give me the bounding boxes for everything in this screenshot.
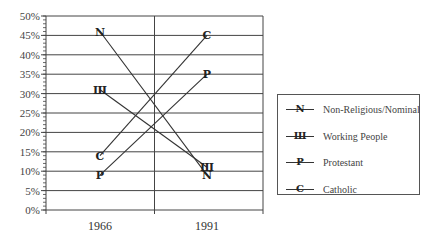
data-point-marker: Ш [93, 84, 107, 97]
gridlines [46, 16, 263, 214]
y-tick-label: 0% [25, 204, 40, 216]
c-marker-icon: C [286, 181, 314, 197]
y-tick-label: 40% [20, 49, 40, 61]
n-marker-icon: N [286, 101, 314, 117]
x-axis: 19661991 [88, 219, 219, 233]
y-tick-label: 15% [20, 146, 40, 158]
legend-item-catholic: C Catholic [278, 181, 357, 197]
legend: N Non-Religious/Nominal Ш Working People… [277, 94, 420, 195]
data-point-marker: C [203, 29, 212, 42]
w-marker-icon: Ш [286, 128, 314, 144]
y-tick-label: 20% [20, 126, 40, 138]
data-point-marker: N [95, 26, 105, 39]
x-tick-label: 1966 [88, 219, 112, 233]
legend-item-protestant: P Protestant [278, 154, 363, 170]
series-line [100, 74, 207, 175]
y-tick-label: 25% [20, 107, 40, 119]
legend-item-non-religious: N Non-Religious/Nominal [278, 101, 420, 117]
y-tick-label: 50% [20, 10, 40, 22]
data-point-marker: Ш [200, 161, 214, 174]
data-point-marker: C [96, 150, 105, 163]
data-series: NNШШPPCC [93, 26, 214, 183]
y-tick-label: 30% [20, 88, 40, 100]
y-axis: 0%5%10%15%20%25%30%35%40%45%50% [20, 10, 46, 216]
y-tick-label: 5% [25, 185, 40, 197]
legend-label: Working People [323, 131, 387, 142]
x-tick-label: 1991 [195, 219, 219, 233]
y-tick-label: 10% [20, 165, 40, 177]
legend-label: Catholic [323, 184, 357, 195]
p-marker-icon: P [286, 154, 314, 170]
data-point-marker: P [203, 68, 211, 81]
data-point-marker: P [96, 169, 104, 182]
legend-label: Protestant [323, 157, 363, 168]
y-tick-label: 35% [20, 68, 40, 80]
series-line [100, 90, 207, 168]
legend-item-working-people: Ш Working People [278, 128, 387, 144]
legend-label: Non-Religious/Nominal [323, 104, 420, 115]
y-tick-label: 45% [20, 29, 40, 41]
